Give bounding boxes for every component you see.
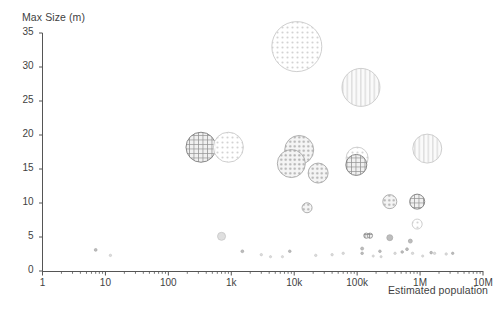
bubble-marker	[94, 249, 97, 252]
bubble-marker	[452, 252, 454, 254]
bubble-marker	[401, 251, 404, 254]
bubble-marker	[260, 253, 262, 255]
bubble-marker	[380, 256, 382, 258]
bubble-marker	[342, 68, 380, 106]
y-axis-title: Max Size (m)	[22, 11, 85, 23]
bubble-marker	[406, 248, 409, 251]
x-tick-label: 100	[148, 277, 188, 288]
plot-area	[0, 0, 504, 309]
bubble-marker	[342, 252, 344, 254]
bubble-marker	[372, 255, 374, 257]
bubble-marker	[302, 203, 312, 213]
bubble-marker	[433, 252, 435, 254]
bubble-marker	[186, 132, 216, 162]
bubble-marker	[213, 132, 243, 162]
bubble-marker	[277, 150, 305, 178]
x-tick-label: 1M	[400, 277, 440, 288]
bubble-marker	[408, 239, 412, 243]
y-tick-label: 25	[12, 94, 34, 105]
bubble-marker	[331, 253, 333, 255]
bubble-marker	[413, 134, 442, 163]
bubble-marker	[410, 194, 425, 209]
bubble-marker	[346, 154, 367, 175]
x-tick-label: 100k	[337, 277, 377, 288]
bubble-marker	[269, 256, 271, 258]
y-tick-label: 30	[12, 60, 34, 71]
bubble-marker	[445, 253, 447, 255]
bubble-marker	[109, 254, 111, 256]
bubble-marker	[361, 252, 364, 255]
bubble-marker	[241, 250, 244, 253]
bubble-marker	[379, 250, 382, 253]
bubble-marker	[411, 252, 413, 254]
x-tick-label: 10	[85, 277, 125, 288]
y-tick-label: 15	[12, 162, 34, 173]
x-tick-label: 10k	[274, 277, 314, 288]
bubble-marker	[272, 22, 322, 72]
bubble-marker	[361, 247, 364, 250]
bubble-marker	[422, 255, 424, 257]
bubble-marker	[281, 256, 283, 258]
bubble-marker	[367, 233, 372, 238]
bubble-marker	[315, 254, 317, 256]
bubble-marker	[430, 251, 433, 254]
bubble-chart: Max Size (m) Estimated population 051015…	[0, 0, 504, 309]
bubble-marker	[383, 195, 397, 209]
y-axis-ticks	[39, 33, 43, 271]
data-bubbles	[94, 22, 454, 258]
y-tick-label: 35	[12, 26, 34, 37]
x-tick-label: 1k	[211, 277, 251, 288]
y-tick-label: 5	[12, 230, 34, 241]
bubble-marker	[412, 219, 422, 229]
y-tick-label: 10	[12, 196, 34, 207]
bubble-marker	[218, 232, 226, 240]
bubble-marker	[387, 235, 393, 241]
x-tick-label: 1	[23, 277, 63, 288]
bubble-marker	[308, 163, 328, 183]
bubble-marker	[288, 250, 291, 253]
x-tick-label: 10M	[463, 277, 503, 288]
bubble-marker	[394, 252, 396, 254]
y-tick-label: 20	[12, 128, 34, 139]
y-tick-label: 0	[12, 264, 34, 275]
